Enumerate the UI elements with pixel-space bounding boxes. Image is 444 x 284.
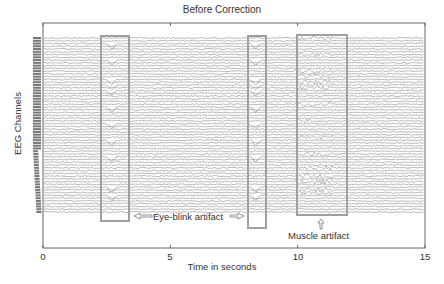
channel-label	[33, 92, 41, 94]
channel-label	[33, 59, 41, 61]
channel-label	[33, 131, 41, 133]
channel-label	[33, 134, 41, 136]
channel-label	[35, 192, 40, 194]
channel-label	[34, 159, 39, 161]
channel-label	[35, 181, 40, 183]
channel-label	[33, 81, 41, 83]
channel-label	[36, 205, 41, 207]
channel-label	[33, 84, 41, 86]
channel-label	[33, 101, 41, 103]
channel-label	[33, 112, 41, 114]
channel-label	[33, 103, 41, 105]
x-axis-label: Time in seconds	[0, 261, 444, 272]
channel-label	[33, 136, 41, 138]
channel-label	[33, 153, 38, 155]
channel-label	[35, 183, 40, 185]
muscle-region-box	[297, 35, 347, 215]
plot-area	[0, 0, 444, 284]
channel-label	[33, 37, 41, 39]
channel-label	[33, 54, 41, 56]
channel-label	[34, 161, 39, 163]
channel-label	[33, 156, 38, 158]
channel-label	[33, 87, 41, 89]
channel-label	[36, 197, 41, 199]
channel-label	[33, 123, 41, 125]
channel-label	[36, 211, 41, 213]
channel-label	[34, 172, 39, 174]
channel-label	[33, 95, 41, 97]
eeg-figure: Before Correction EEG Channels 0 5 10 15…	[0, 0, 444, 284]
channel-label	[36, 200, 41, 202]
muscle-annotation: Muscle artifact	[288, 230, 349, 241]
channel-label	[33, 125, 41, 127]
channel-label	[33, 65, 41, 67]
channel-label	[34, 164, 39, 166]
channel-label	[33, 43, 41, 45]
channel-label	[33, 139, 41, 141]
channel-label	[35, 175, 40, 177]
channel-label	[33, 109, 41, 111]
channel-label	[33, 145, 41, 147]
channel-label	[35, 189, 40, 191]
channel-label	[36, 208, 41, 210]
channel-label	[34, 170, 39, 172]
channel-label	[36, 203, 41, 205]
channel-label	[33, 76, 41, 78]
channel-label	[33, 98, 41, 100]
channel-label	[33, 78, 41, 80]
channel-label	[33, 67, 41, 69]
channel-label	[33, 62, 41, 64]
channel-label	[33, 128, 41, 130]
channel-label	[33, 51, 41, 53]
eye-blink-annotation: Eye-blink artifact	[153, 211, 223, 222]
channel-label	[36, 194, 41, 196]
channel-label	[33, 70, 41, 72]
channel-label	[34, 167, 39, 169]
channel-label	[35, 178, 40, 180]
channel-label	[33, 106, 41, 108]
channel-label	[33, 142, 41, 144]
channel-label	[33, 147, 41, 149]
channel-label	[33, 150, 38, 152]
channel-label	[33, 48, 41, 50]
channel-label	[33, 89, 41, 91]
eeg-traces	[33, 36, 424, 213]
channel-label	[33, 40, 41, 42]
channel-label	[33, 117, 41, 119]
channel-label	[35, 186, 40, 188]
channel-label	[33, 45, 41, 47]
channel-label	[33, 120, 41, 122]
channel-label	[33, 56, 41, 58]
channel-label	[33, 114, 41, 116]
channel-label	[33, 73, 41, 75]
